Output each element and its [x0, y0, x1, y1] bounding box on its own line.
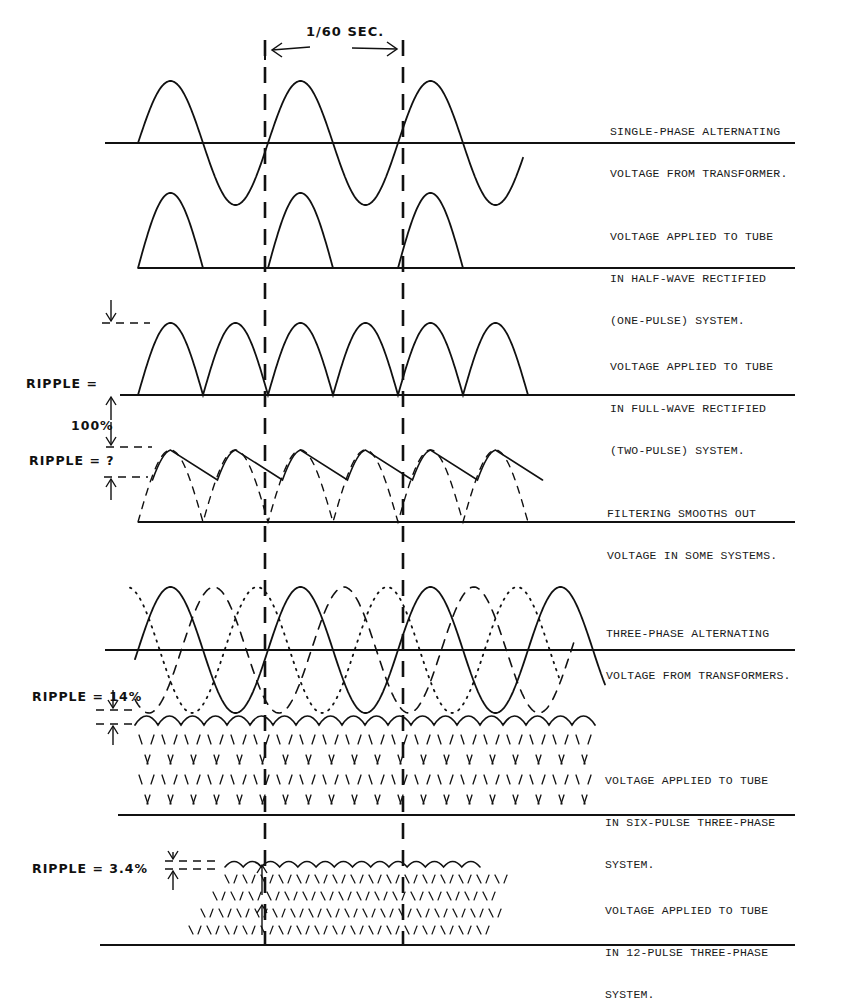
caption-full-wave: VOLTAGE APPLIED TO TUBE IN FULL-WAVE REC… [610, 332, 773, 472]
caption-line: VOLTAGE FROM TRANSFORMERS. [606, 669, 791, 683]
caption-line: VOLTAGE APPLIED TO TUBE [605, 774, 775, 788]
caption-line: IN 12-PULSE THREE-PHASE [605, 946, 768, 960]
caption-line: FILTERING SMOOTHS OUT [607, 507, 777, 521]
ripple-label-line: RIPPLE = [26, 377, 114, 391]
caption-twelve-pulse: VOLTAGE APPLIED TO TUBE IN 12-PULSE THRE… [605, 876, 768, 1002]
caption-line: IN HALF-WAVE RECTIFIED [610, 272, 773, 286]
period-arrow [265, 40, 403, 60]
waveforms [130, 81, 605, 934]
caption-six-pulse: VOLTAGE APPLIED TO TUBE IN SIX-PULSE THR… [605, 746, 775, 886]
caption-line: IN FULL-WAVE RECTIFIED [610, 402, 773, 416]
caption-line: VOLTAGE APPLIED TO TUBE [610, 230, 773, 244]
caption-line: VOLTAGE FROM TRANSFORMER. [610, 167, 788, 181]
ripple-label-line: 100% [26, 419, 114, 433]
caption-line: SYSTEM. [605, 858, 775, 872]
period-markers [265, 40, 403, 945]
ripple-label-filtered: RIPPLE = ? [29, 454, 115, 468]
ripple-label-full-wave: RIPPLE = 100% [26, 349, 114, 447]
caption-line: VOLTAGE APPLIED TO TUBE [605, 904, 768, 918]
caption-single-phase: SINGLE-PHASE ALTERNATING VOLTAGE FROM TR… [610, 97, 788, 195]
ripple-label-six-pulse: RIPPLE = 14% [32, 690, 142, 704]
caption-half-wave: VOLTAGE APPLIED TO TUBE IN HALF-WAVE REC… [610, 202, 773, 342]
period-label: 1/60 SEC. [306, 24, 384, 39]
caption-line: SYSTEM. [605, 988, 768, 1002]
caption-three-phase: THREE-PHASE ALTERNATING VOLTAGE FROM TRA… [606, 599, 791, 697]
caption-line: SINGLE-PHASE ALTERNATING [610, 125, 788, 139]
ripple-label-twelve-pulse: RIPPLE = 3.4% [32, 862, 148, 876]
caption-line: IN SIX-PULSE THREE-PHASE [605, 816, 775, 830]
caption-line: (TWO-PULSE) SYSTEM. [610, 444, 773, 458]
caption-line: VOLTAGE IN SOME SYSTEMS. [607, 549, 777, 563]
caption-line: VOLTAGE APPLIED TO TUBE [610, 360, 773, 374]
caption-line: THREE-PHASE ALTERNATING [606, 627, 791, 641]
caption-filtered: FILTERING SMOOTHS OUT VOLTAGE IN SOME SY… [607, 479, 777, 577]
caption-line: (ONE-PULSE) SYSTEM. [610, 314, 773, 328]
